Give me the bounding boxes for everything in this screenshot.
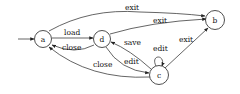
edge-label-load: load (64, 28, 80, 37)
edge-label-close-ca: close (93, 60, 113, 69)
node-b: b (206, 11, 225, 30)
edge-c-c-edit (155, 57, 163, 66)
state-diagram: load close exit exit save edit edit clos… (0, 0, 240, 94)
node-label-b: b (213, 16, 218, 25)
node-label-d: d (100, 35, 105, 44)
edge-label-edit-cc: edit (153, 44, 168, 53)
node-d: d (94, 31, 111, 48)
edge-label-exit-cb: exit (179, 35, 193, 44)
edge-label-close-da: close (62, 43, 82, 52)
node-label-a: a (41, 35, 46, 44)
node-a: a (35, 31, 52, 48)
edge-label-save: save (124, 38, 142, 47)
edge-label-exit-ab: exit (125, 3, 139, 12)
node-c: c (150, 66, 169, 85)
node-label-c: c (157, 71, 161, 80)
edge-label-exit-db: exit (153, 16, 167, 25)
edge-c-b-exit (165, 28, 208, 68)
edge-label-edit-dc: edit (124, 57, 139, 66)
